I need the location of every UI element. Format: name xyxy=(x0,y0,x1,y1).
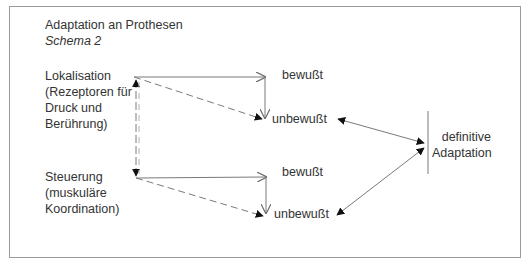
diagram-connectors xyxy=(0,0,526,264)
edge-lokalisation-unbewusst xyxy=(134,77,262,119)
edge-steuerung-bewusst xyxy=(136,177,266,178)
edge-steuerung-unbewusst xyxy=(136,178,263,216)
edge-bottom-unbewusst-definitive xyxy=(337,148,424,215)
edge-top-unbewusst-definitive xyxy=(338,119,424,143)
